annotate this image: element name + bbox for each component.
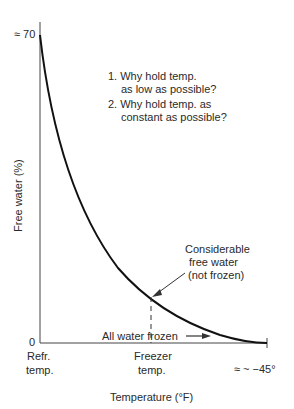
note-line-2: free water	[189, 256, 238, 268]
note-line-3: (not frozen)	[188, 269, 244, 281]
y-axis-label: Free water (%)	[12, 159, 24, 232]
x-tick-freezer-1: Freezer	[134, 350, 172, 362]
note-arrowhead	[152, 289, 162, 297]
chart: ≈ 70 0 Free water (%) Refr. temp. Freeze…	[0, 0, 294, 409]
question-1-line-2: as low as possible?	[121, 83, 216, 95]
note-line-1: Considerable	[185, 243, 250, 255]
x-tick-end: ≈ ~ −45°	[234, 363, 276, 375]
x-tick-refr-1: Refr.	[27, 350, 50, 362]
y-tick-zero: 0	[29, 336, 35, 348]
question-2-line-1: 2. Why hold temp. as	[108, 98, 212, 110]
all-frozen-arrowhead	[202, 333, 211, 339]
y-tick-top: ≈ 70	[14, 28, 35, 40]
question-2-line-2: constant as possible?	[121, 111, 227, 123]
all-frozen-label: All water frozen	[102, 330, 178, 342]
x-axis-label: Temperature (°F)	[110, 391, 193, 403]
x-tick-refr-2: temp.	[26, 364, 54, 376]
x-tick-freezer-2: temp.	[138, 364, 166, 376]
question-1-line-1: 1. Why hold temp.	[108, 70, 197, 82]
